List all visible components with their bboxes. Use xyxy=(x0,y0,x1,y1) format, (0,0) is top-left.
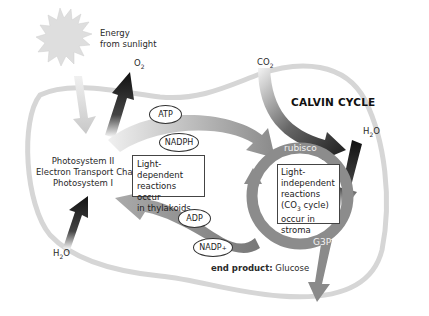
sun-icon xyxy=(36,8,92,66)
h2o-right-label: H2O xyxy=(363,126,380,140)
light-dependent-line2: reactions occur xyxy=(137,181,200,203)
h2o-left-label: H2O xyxy=(53,248,70,262)
calvin-box-line1: Light- xyxy=(281,167,336,178)
calvin-box-line4: (CO3 cycle) xyxy=(281,200,336,214)
sunlight-label-line1: Energy xyxy=(100,28,157,39)
calvin-box-line5: occur in stroma xyxy=(281,214,336,236)
end-product-value: Glucose xyxy=(273,263,310,273)
light-independent-box: Light- independent reactions (CO3 cycle)… xyxy=(277,164,340,224)
adp-oval: ADP xyxy=(178,209,211,228)
end-product-key: end product: xyxy=(211,263,273,273)
g3p-label: G3P xyxy=(313,237,331,247)
light-dependent-line1: Light-dependent xyxy=(137,159,200,181)
rubisco-label: rubisco xyxy=(284,143,317,153)
nadph-oval: NADPH xyxy=(159,133,199,152)
light-dependent-box: Light-dependent reactions occur in thyla… xyxy=(132,155,205,197)
o2-label: O2 xyxy=(134,58,145,72)
calvin-box-line2: independent xyxy=(281,178,336,189)
co2-label: CO2 xyxy=(257,57,273,71)
end-product-label: end product: Glucose xyxy=(211,263,309,274)
calvin-box-line3: reactions xyxy=(281,189,336,200)
light-reactions-label: Photosystem II Electron Transport Chain … xyxy=(36,156,130,189)
nadp-oval: NADP+ xyxy=(193,238,233,257)
h2o-left-arrow xyxy=(63,196,88,250)
sunlight-label-line2: from sunlight xyxy=(100,39,157,50)
photosystem-i-label: Photosystem I xyxy=(36,178,130,189)
calvin-cycle-title: CALVIN CYCLE xyxy=(291,96,375,108)
electron-transport-chain-label: Electron Transport Chain xyxy=(36,167,130,178)
atp-oval: ATP xyxy=(149,105,182,124)
sunlight-label: Energy from sunlight xyxy=(100,28,157,50)
sunlight-arrow xyxy=(73,76,96,134)
photosystem-ii-label: Photosystem II xyxy=(36,156,130,167)
